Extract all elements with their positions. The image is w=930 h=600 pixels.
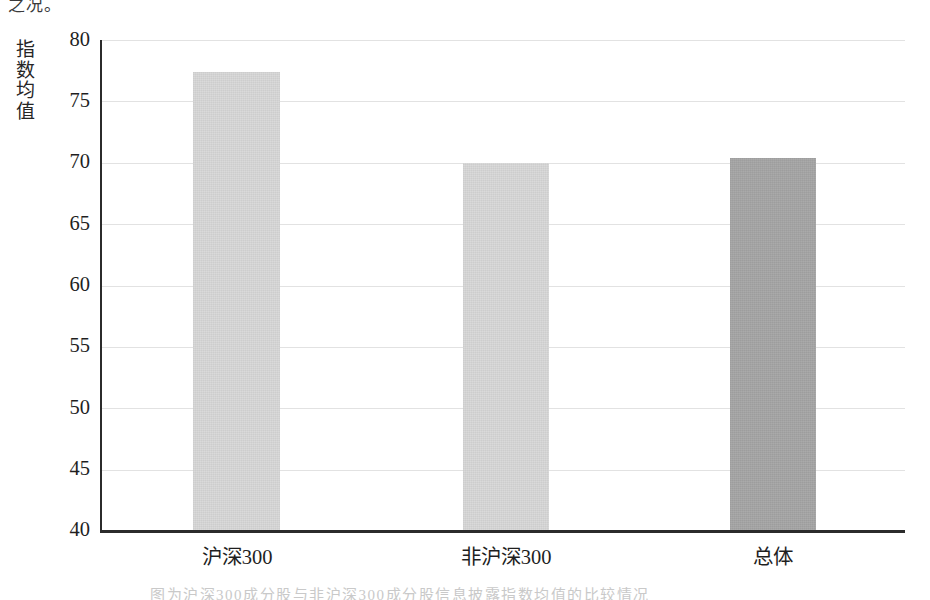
y-tick-label: 65 <box>44 213 90 234</box>
x-axis-category-labels: 沪深300 非沪深300 总体 <box>100 540 905 574</box>
y-tick-label: 70 <box>44 151 90 172</box>
bar-fill <box>463 163 549 531</box>
x-tick-label: 非沪深300 <box>442 540 570 570</box>
bar <box>730 158 816 531</box>
y-tick-label: 60 <box>44 274 90 295</box>
y-tick-label: 45 <box>44 458 90 479</box>
y-axis-line <box>100 40 102 531</box>
x-tick-label: 沪深300 <box>181 540 293 570</box>
plot-area <box>100 40 905 531</box>
bar <box>463 163 549 531</box>
bar-fill <box>730 158 816 531</box>
bar-chart-figure: 指 数 均 值 80 75 70 65 60 55 50 45 40 <box>0 0 930 600</box>
bar <box>193 72 280 531</box>
page-bottom-cut-text: 图为沪深300成分股与非沪深300成分股信息披露指数均值的比较情况 <box>150 583 650 600</box>
y-tick-label: 55 <box>44 335 90 356</box>
y-tick-label: 50 <box>44 397 90 418</box>
x-tick-label: 总体 <box>718 540 828 570</box>
gridline <box>100 40 905 41</box>
y-tick-label: 40 <box>44 519 90 540</box>
y-tick-label: 80 <box>44 29 90 50</box>
y-tick-label: 75 <box>44 90 90 111</box>
bar-fill <box>193 72 280 531</box>
x-axis-line <box>100 530 905 533</box>
